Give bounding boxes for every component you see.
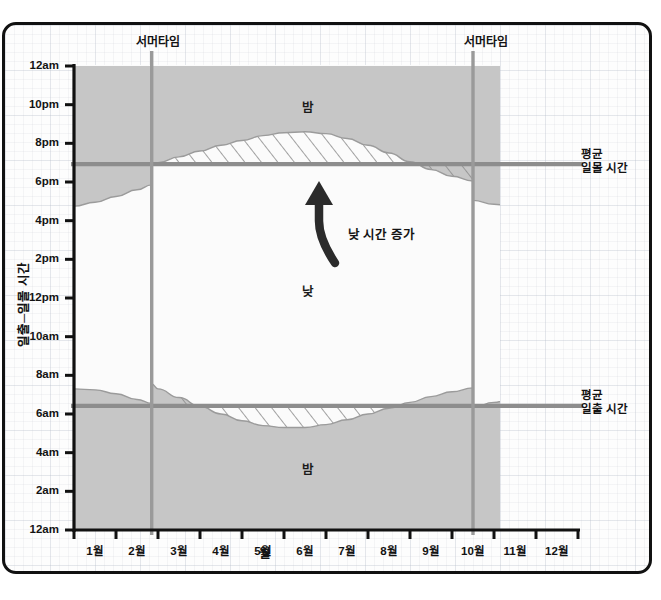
x-tick-label-7월: 7월 [326, 542, 368, 558]
daylight-increase-label: 낮 시간 증가 [348, 224, 415, 243]
y-tick-label-4pm: 4pm [5, 214, 59, 226]
x-axis-title: 월 [259, 543, 271, 562]
y-tick-label-6pm: 6pm [5, 175, 59, 187]
y-tick-label-8am: 8am [5, 368, 59, 380]
y-tick-label-8pm: 8pm [5, 136, 59, 148]
y-tick-label-10pm: 10pm [5, 98, 59, 110]
x-tick-label-2월: 2월 [116, 542, 158, 558]
x-tick-label-9월: 9월 [410, 542, 452, 558]
dst-label-spring: 서머타임 [136, 32, 180, 49]
x-tick-label-8월: 8월 [368, 542, 410, 558]
chart-plot [5, 25, 651, 573]
x-tick-label-4월: 4월 [200, 542, 242, 558]
x-tick-label-3월: 3월 [158, 542, 200, 558]
y-tick-label-6am: 6am [5, 407, 59, 419]
chart-frame: 12am2am4am6am8am10am12pm2pm4pm6pm8pm10pm… [2, 22, 652, 574]
y-tick-label-4am: 4am [5, 446, 59, 458]
y-axis-title: 일출─일몰 시간 [13, 245, 32, 365]
average-sunrise-label-line2: 일출 시간 [581, 402, 628, 416]
x-tick-label-11월: 11월 [494, 542, 536, 558]
y-tick-label-12am: 12am [5, 523, 59, 535]
night-label-top: 밤 [302, 97, 314, 116]
average-sunset-label-line1: 평균 [581, 147, 628, 161]
y-tick-label-12am: 12am [5, 59, 59, 71]
chart-screenshot: 12am2am4am6am8am10am12pm2pm4pm6pm8pm10pm… [0, 0, 661, 600]
x-tick-label-12월: 12월 [536, 542, 578, 558]
dst-label-fall: 서머타임 [464, 32, 508, 49]
night-label-bottom: 밤 [302, 459, 314, 478]
day-label: 낮 [302, 281, 314, 300]
x-tick-label-6월: 6월 [284, 542, 326, 558]
x-tick-label-10월: 10월 [452, 542, 494, 558]
average-sunrise-label-line1: 평균 [581, 388, 628, 402]
average-sunset-label: 평균 일몰 시간 [581, 147, 628, 175]
y-tick-label-2am: 2am [5, 484, 59, 496]
average-sunset-label-line2: 일몰 시간 [581, 161, 628, 175]
x-tick-label-1월: 1월 [74, 542, 116, 558]
average-sunrise-label: 평균 일출 시간 [581, 388, 628, 416]
